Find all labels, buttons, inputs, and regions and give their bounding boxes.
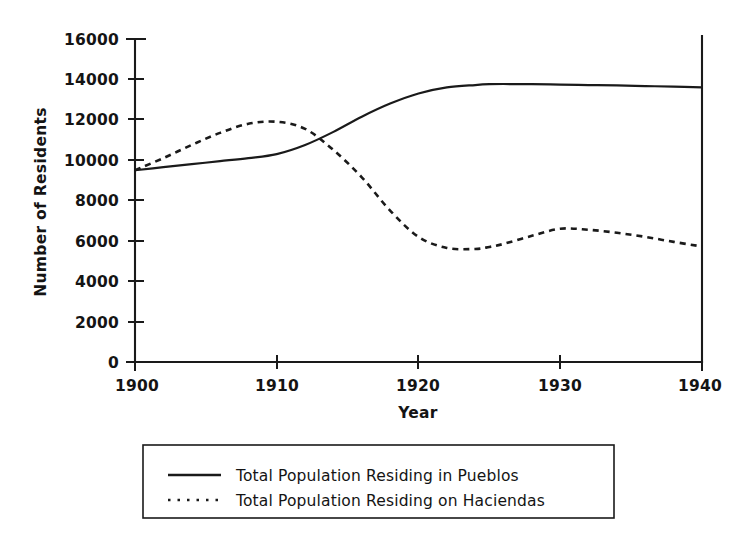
y-tick-label-10000: 10000	[64, 152, 119, 170]
x-axis-title: Year	[397, 404, 438, 422]
x-tick-label-1900: 1900	[115, 377, 159, 395]
legend-label-pueblos: Total Population Residing in Pueblos	[235, 467, 519, 485]
y-axis-title: Number of Residents	[32, 107, 50, 297]
chart-legend: Total Population Residing in Pueblos Tot…	[143, 445, 614, 518]
x-tick-label-1920: 1920	[396, 377, 440, 395]
y-tick-label-14000: 14000	[64, 71, 119, 89]
series-line-pueblos	[135, 84, 702, 170]
y-tick-labels: 16000 14000 12000 10000 8000 6000 4000 2…	[64, 31, 119, 372]
y-tick-label-16000: 16000	[64, 31, 119, 49]
y-tick-label-12000: 12000	[64, 111, 119, 129]
x-tick-label-1910: 1910	[255, 377, 299, 395]
y-tick-label-6000: 6000	[75, 233, 119, 251]
x-tick-label-1940: 1940	[678, 377, 722, 395]
x-tick-label-1930: 1930	[538, 377, 582, 395]
x-tick-labels: 1900 1910 1920 1930 1940	[115, 377, 722, 395]
y-tick-label-2000: 2000	[75, 314, 119, 332]
chart-figure: Number of Residents 16000 14000 12000 10…	[0, 0, 753, 552]
legend-label-haciendas: Total Population Residing on Haciendas	[235, 492, 545, 510]
y-tick-label-8000: 8000	[75, 192, 119, 210]
chart-svg: Number of Residents 16000 14000 12000 10…	[0, 0, 753, 552]
y-tick-label-4000: 4000	[75, 273, 119, 291]
y-tick-label-0: 0	[108, 354, 119, 372]
series-line-haciendas	[135, 121, 702, 249]
